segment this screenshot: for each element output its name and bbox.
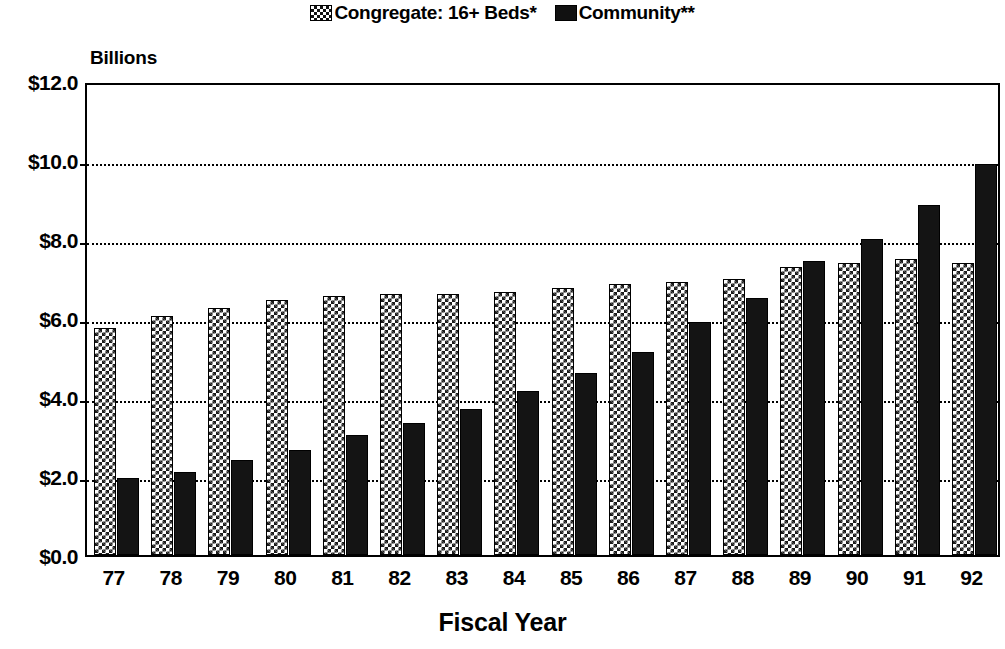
bar-78-congregate	[151, 316, 173, 555]
bar-group	[494, 85, 539, 555]
bar-group	[437, 85, 482, 555]
bar-group	[208, 85, 253, 555]
bar-90-congregate	[838, 263, 860, 555]
bar-79-community	[231, 460, 253, 555]
bar-81-congregate	[323, 296, 345, 555]
bar-78-community	[174, 472, 196, 555]
bar-91-congregate	[895, 259, 917, 555]
bar-89-congregate	[780, 267, 802, 555]
bar-group	[895, 85, 940, 555]
bar-80-community	[289, 450, 311, 555]
y-axis-tick-label: $12.0	[0, 71, 78, 95]
bar-86-community	[632, 352, 654, 555]
bar-83-congregate	[437, 294, 459, 555]
legend-label-congregate: Congregate: 16+ Beds*	[334, 2, 536, 24]
legend-swatch-community-icon	[555, 5, 577, 21]
bar-group	[94, 85, 139, 555]
y-axis-tick-label: $0.0	[0, 545, 78, 569]
bar-79-congregate	[208, 308, 230, 555]
bar-89-community	[803, 261, 825, 555]
bar-group	[609, 85, 654, 555]
bar-group	[266, 85, 311, 555]
bar-92-community	[975, 164, 997, 555]
bar-87-congregate	[666, 282, 688, 555]
y-axis-units-label: Billions	[90, 47, 157, 69]
bar-84-community	[517, 391, 539, 555]
bar-82-community	[403, 423, 425, 555]
legend-label-community: Community**	[579, 2, 695, 24]
x-axis-tick-label: 85	[560, 566, 582, 590]
legend-entry-community: Community**	[555, 2, 695, 24]
bar-group	[838, 85, 883, 555]
y-axis-tick-label: $6.0	[0, 308, 78, 332]
bar-87-community	[689, 322, 711, 555]
bar-91-community	[918, 205, 940, 555]
bar-84-congregate	[494, 292, 516, 555]
x-axis-tick-label: 88	[731, 566, 753, 590]
bar-group	[380, 85, 425, 555]
x-axis-tick-label: 89	[789, 566, 811, 590]
x-axis-tick-label: 79	[217, 566, 239, 590]
y-axis-labels: $0.0$2.0$4.0$6.0$8.0$10.0$12.0	[0, 83, 78, 557]
x-axis-tick-label: 77	[102, 566, 124, 590]
x-axis-tick-label: 83	[446, 566, 468, 590]
x-axis-title: Fiscal Year	[0, 608, 1005, 637]
x-axis-tick-label: 87	[674, 566, 696, 590]
bar-88-community	[746, 298, 768, 555]
bar-77-congregate	[94, 328, 116, 555]
x-axis-tick-label: 84	[503, 566, 525, 590]
bar-85-congregate	[552, 288, 574, 555]
bar-82-congregate	[380, 294, 402, 555]
bar-group	[666, 85, 711, 555]
x-axis-tick-label: 81	[331, 566, 353, 590]
bars-layer	[87, 85, 998, 555]
bar-77-community	[117, 478, 139, 555]
y-axis-tick-label: $8.0	[0, 229, 78, 253]
x-axis-tick-label: 80	[274, 566, 296, 590]
legend-swatch-congregate-icon	[310, 5, 332, 21]
bar-80-congregate	[266, 300, 288, 555]
x-axis-tick-label: 82	[388, 566, 410, 590]
bar-88-congregate	[723, 279, 745, 556]
plot-area	[85, 83, 1000, 557]
x-axis-tick-label: 78	[160, 566, 182, 590]
bar-group	[952, 85, 997, 555]
bar-83-community	[460, 409, 482, 555]
y-axis-tick-label: $4.0	[0, 387, 78, 411]
bar-group	[552, 85, 597, 555]
x-axis-tick-label: 91	[903, 566, 925, 590]
bar-group	[323, 85, 368, 555]
bar-92-congregate	[952, 263, 974, 555]
bar-group	[723, 85, 768, 555]
bar-group	[780, 85, 825, 555]
y-axis-tick-label: $2.0	[0, 466, 78, 490]
x-axis-tick-label: 90	[846, 566, 868, 590]
bar-group	[151, 85, 196, 555]
chart-legend: Congregate: 16+ Beds* Community**	[0, 2, 1005, 24]
bar-90-community	[861, 239, 883, 555]
y-axis-tick-label: $10.0	[0, 150, 78, 174]
bar-81-community	[346, 435, 368, 555]
x-axis-labels: 77787980818283848586878889909192	[85, 566, 1000, 596]
bar-86-congregate	[609, 284, 631, 555]
legend-entry-congregate: Congregate: 16+ Beds*	[310, 2, 536, 24]
x-axis-tick-label: 86	[617, 566, 639, 590]
x-axis-tick-label: 92	[960, 566, 982, 590]
bar-85-community	[575, 373, 597, 555]
